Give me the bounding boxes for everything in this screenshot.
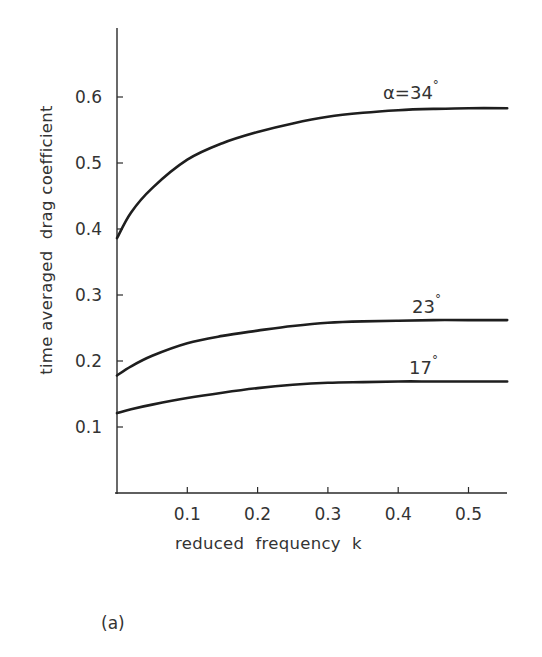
y-tick-label: 0.4 (75, 219, 102, 239)
x-tick-label: 0.3 (314, 504, 341, 524)
y-tick-label: 0.1 (75, 417, 102, 437)
panel-label: (a) (101, 613, 125, 633)
annotation-alpha-34: α=34° (383, 78, 439, 103)
x-tick-label: 0.2 (244, 504, 271, 524)
y-tick-label: 0.6 (75, 87, 102, 107)
annotation-23: 23° (412, 292, 441, 317)
y-tick-label: 0.3 (75, 285, 102, 305)
curve-alpha-34 (117, 108, 507, 238)
y-axis-label: time averaged drag coefficient (37, 105, 56, 375)
drag-coefficient-chart: 0.10.20.30.40.50.6 0.10.20.30.40.5 α=34°… (0, 0, 542, 657)
x-tick-label: 0.1 (174, 504, 201, 524)
x-tick-label: 0.5 (455, 504, 482, 524)
curve-alpha-17 (117, 381, 507, 413)
y-tick-label: 0.5 (75, 153, 102, 173)
x-axis-label: reduced frequency k (175, 534, 362, 553)
x-tick-label: 0.4 (385, 504, 412, 524)
data-curves (117, 108, 507, 413)
annotation-17: 17° (409, 353, 438, 378)
y-tick-label: 0.2 (75, 351, 102, 371)
y-ticks: 0.10.20.30.40.50.6 (75, 87, 123, 437)
curve-alpha-23 (117, 320, 507, 375)
